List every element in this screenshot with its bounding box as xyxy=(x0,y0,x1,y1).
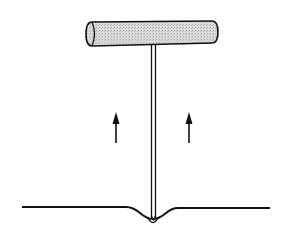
arrow-up-icon xyxy=(113,112,120,143)
shaft xyxy=(152,44,156,220)
diagram-canvas: T-handle tool being pulled upward out of… xyxy=(0,0,289,238)
t-handle xyxy=(86,21,218,46)
arrow-up-icon xyxy=(186,112,193,143)
surface-line xyxy=(22,207,270,223)
diagram-svg xyxy=(0,0,289,238)
